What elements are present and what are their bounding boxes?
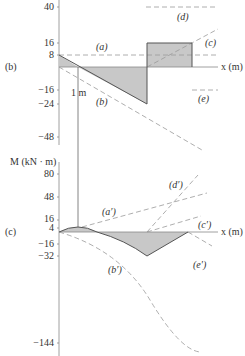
moment-tick-neg32: −32 [14,251,54,261]
moment-dash-e [188,232,212,246]
label-1m: 1 m [71,88,86,98]
label-c-prime: (c′) [198,220,211,230]
shear-moment-diagram: 40 16 8 −16 −24 −48 (b) x (m) (a) (b) (c… [0,0,245,356]
moment-x-label: x (m) [221,227,243,237]
moment-dash-c [147,216,201,232]
shear-tick-neg48: −48 [14,132,54,142]
label-a-prime: (a′) [102,207,116,217]
label-e: (e) [198,94,209,104]
label-c: (c) [205,38,216,48]
label-d-prime: (d′) [169,180,183,190]
moment-dash-b [59,232,200,352]
shear-tick-neg24: −24 [14,99,54,109]
shear-x-label: x (m) [221,62,243,72]
shear-tick-neg16: −16 [14,85,54,95]
label-b-prime: (b′) [108,265,122,275]
label-a: (a) [96,42,108,52]
moment-tick-80: 80 [14,169,54,179]
moment-tick-4: 4 [14,223,54,233]
moment-dash-a [82,193,207,227]
moment-tick-48: 48 [14,192,54,202]
shear-tick-40: 40 [14,2,54,12]
label-e-prime: (e′) [193,260,206,270]
panel-label-b: (b) [5,62,17,72]
label-b: (b) [96,97,108,107]
moment-tick-neg16: −16 [14,239,54,249]
shear-diagram [57,0,218,150]
moment-y-label: M (kN · m) [10,157,56,167]
shear-tick-16: 16 [14,38,54,48]
label-d: (d) [177,12,189,22]
shear-tick-8: 8 [14,50,54,60]
moment-tick-neg144: −144 [14,338,54,348]
panel-label-c: (c) [5,227,16,237]
